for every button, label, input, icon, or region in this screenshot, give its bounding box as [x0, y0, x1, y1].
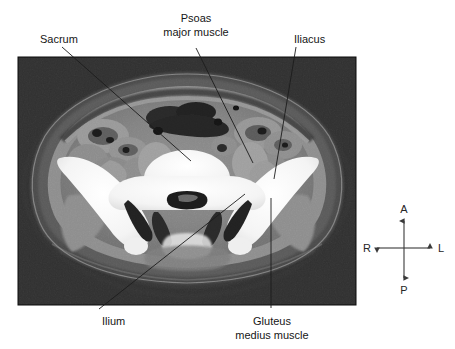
compass-label-right: R: [363, 242, 371, 254]
ct-grain-overlay: [18, 57, 356, 305]
compass-label-left: L: [438, 242, 444, 254]
label-psoas-major-muscle-line1: Psoas: [181, 12, 212, 24]
label-gluteus-medius-muscle-line2: medius muscle: [235, 329, 308, 341]
label-sacrum: Sacrum: [40, 33, 78, 45]
compass-label-anterior: A: [400, 203, 408, 215]
label-iliacus: Iliacus: [294, 33, 326, 45]
label-ilium: Ilium: [102, 315, 125, 327]
scan-content: [18, 57, 356, 305]
label-gluteus-medius-muscle-line1: Gluteus: [253, 315, 291, 327]
ct-scan-image: [18, 57, 356, 305]
ct-scan-figure: Sacrum Psoas major muscle Iliacus Ilium …: [0, 0, 455, 349]
compass-label-posterior: P: [400, 284, 407, 296]
label-psoas-major-muscle-line2: major muscle: [163, 26, 228, 38]
